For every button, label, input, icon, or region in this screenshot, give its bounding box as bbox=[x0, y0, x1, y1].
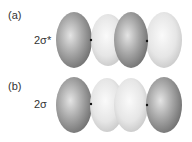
lobe-a1-dark bbox=[56, 12, 92, 68]
panel-a-lobes bbox=[56, 12, 182, 68]
nucleus-a1 bbox=[90, 39, 92, 41]
lobe-b1-dark bbox=[56, 77, 92, 133]
nucleus-a2 bbox=[146, 40, 148, 42]
lobe-b4-dark bbox=[146, 77, 182, 133]
lobe-a4-light bbox=[146, 12, 182, 68]
lobe-b3-light bbox=[114, 78, 148, 132]
nucleus-b1 bbox=[90, 103, 92, 105]
nucleus-b2 bbox=[146, 104, 148, 106]
lobe-a3-dark bbox=[114, 12, 148, 68]
orbital-diagram bbox=[0, 0, 192, 142]
panel-b-lobes bbox=[56, 77, 182, 133]
